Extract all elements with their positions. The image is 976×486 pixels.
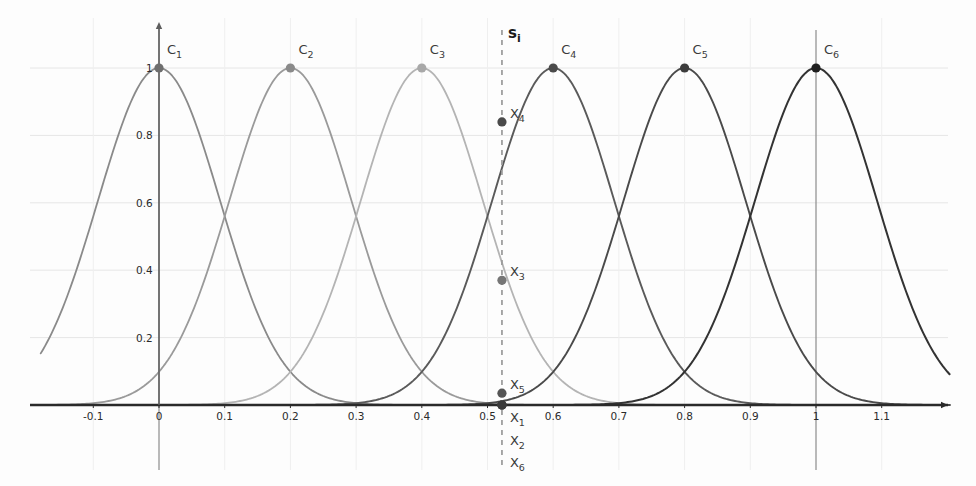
center-label-c1: C1 — [167, 42, 182, 60]
y-axis-arrowhead — [156, 22, 162, 29]
rbf-activation-chart: -0.100.10.20.30.40.50.60.70.80.911.10.20… — [0, 0, 976, 486]
x-axis-tick-label: 0.6 — [545, 410, 562, 422]
activation-label-x3: X3 — [510, 264, 525, 282]
y-axis-tick-label: 0.8 — [136, 129, 153, 141]
curve-layer — [41, 68, 950, 405]
center-point-c5 — [680, 63, 689, 72]
curve-c5 — [41, 68, 950, 405]
activation-label-stack: X1X2X6 — [510, 409, 525, 477]
center-label-c3: C3 — [430, 42, 445, 60]
curve-c4 — [41, 68, 950, 405]
center-label-c2: C2 — [298, 42, 313, 60]
center-label-c4: C4 — [561, 42, 576, 60]
curve-c6 — [41, 68, 950, 405]
center-point-c1 — [154, 63, 163, 72]
y-axis-tick-label: 1 — [146, 62, 153, 74]
x-axis-tick-label: 0.1 — [216, 410, 233, 422]
center-point-c6 — [811, 63, 820, 72]
x-axis-tick-label: 1 — [813, 410, 820, 422]
x-axis-tick-label: 0.2 — [282, 410, 299, 422]
x-axis-arrowhead — [941, 402, 948, 408]
activation-label-x4: X4 — [510, 106, 525, 124]
center-point-c2 — [286, 63, 295, 72]
y-axis-tick-label: 0.6 — [136, 197, 153, 209]
x-axis-tick-label: 0.5 — [479, 410, 496, 422]
x-axis-tick-label: 0.7 — [611, 410, 628, 422]
center-label-c6: C6 — [824, 42, 839, 60]
x-axis-tick-label: -0.1 — [83, 410, 104, 422]
x-axis-tick-label: 1.1 — [873, 410, 890, 422]
activation-label-x5: X5 — [510, 377, 525, 395]
axis-layer — [30, 22, 948, 408]
x-axis-tick-label: 0.3 — [348, 410, 365, 422]
center-label-c5: C5 — [693, 42, 708, 60]
y-axis-tick-label: 0.4 — [136, 264, 153, 276]
sample-line-label: si — [508, 24, 521, 45]
activation-point-x5 — [497, 389, 506, 398]
y-axis-tick-label: 0.2 — [136, 332, 153, 344]
x-axis-tick-label: 0.9 — [742, 410, 759, 422]
activation-point-x3 — [497, 276, 506, 285]
curve-c2 — [41, 68, 950, 405]
center-point-c4 — [549, 63, 558, 72]
x-axis-tick-label: 0 — [156, 410, 163, 422]
curve-c3 — [41, 68, 950, 405]
curve-c1 — [41, 68, 950, 405]
x-axis-tick-label: 0.4 — [413, 410, 430, 422]
x-axis-tick-label: 0.8 — [676, 410, 693, 422]
activation-point-x4 — [497, 117, 506, 126]
center-point-c3 — [417, 63, 426, 72]
activation-point-x6 — [497, 400, 506, 409]
